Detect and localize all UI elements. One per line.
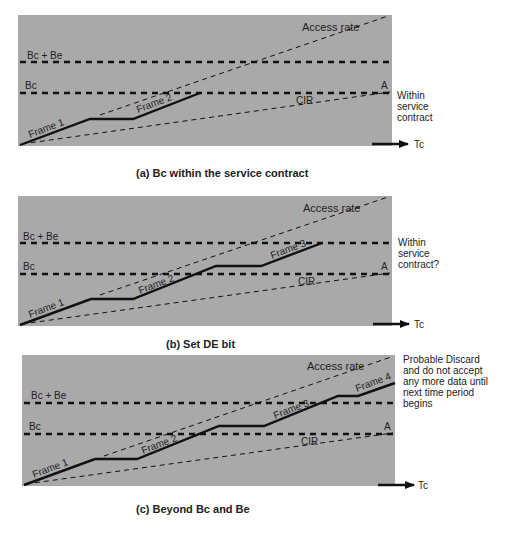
bc-be-label: Bc + Be — [27, 50, 63, 61]
cir-label: CIR — [298, 276, 315, 287]
panel-background — [18, 15, 392, 146]
panel-background — [18, 196, 392, 326]
frame-relay-diagram: Bc + Be Bc Access rate CIR A Frame 1 Fra… — [0, 0, 509, 535]
cir-label: CIR — [296, 95, 313, 106]
panel-caption: (c) Beyond Bc and Be — [136, 503, 250, 515]
bc-label: Bc — [25, 80, 37, 91]
time-axis-label: Tc — [418, 480, 428, 491]
panel-a: Bc + Be Bc Access rate CIR A Frame 1 Fra… — [18, 15, 433, 179]
bc-be-label: Bc + Be — [31, 390, 67, 401]
access-rate-label: Access rate — [307, 360, 364, 372]
cir-label: CIR — [301, 436, 318, 447]
access-rate-label: Access rate — [303, 202, 360, 214]
panel-note: Within service contract? — [398, 237, 440, 270]
panel-note: Within service contract — [397, 90, 433, 123]
time-axis-label: Tc — [414, 139, 424, 150]
point-a-label: A — [381, 261, 388, 272]
point-a-label: A — [384, 421, 391, 432]
point-a-label: A — [381, 80, 388, 91]
time-axis-label: Tc — [414, 319, 424, 330]
panel-c: Bc + Be Bc Access rate CIR A Frame 1 Fra… — [22, 354, 491, 515]
bc-label: Bc — [29, 421, 41, 432]
panel-caption: (b) Set DE bit — [166, 338, 235, 350]
access-rate-label: Access rate — [302, 21, 359, 33]
panel-caption: (a) Bc within the service contract — [136, 167, 309, 179]
bc-be-label: Bc + Be — [23, 231, 59, 242]
bc-label: Bc — [23, 261, 35, 272]
panel-note: Probable Discard and do not accept any m… — [403, 354, 491, 409]
panel-b: Bc + Be Bc Access rate CIR A Frame 1 Fra… — [18, 196, 440, 350]
